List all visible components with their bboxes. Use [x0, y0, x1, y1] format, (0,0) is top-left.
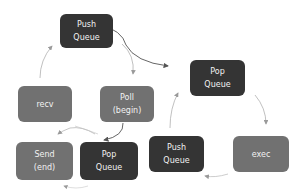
node-label: Queue — [73, 31, 99, 44]
node-label: (end) — [34, 161, 55, 174]
node-label: exec — [252, 148, 271, 161]
node-label: Queue — [163, 154, 189, 167]
node-label: Send — [34, 148, 54, 161]
edge-push-queue-to-pop-queue-2 — [170, 93, 178, 128]
node-send: Send (end) — [16, 142, 73, 180]
node-label: Push — [77, 18, 96, 31]
node-pop-queue-right: Pop Queue — [190, 60, 245, 96]
node-push-queue-top: Push Queue — [60, 14, 113, 48]
node-push-queue-bottom: Push Queue — [149, 136, 204, 172]
node-label: (begin) — [113, 104, 142, 117]
edge-pop-queue-to-exec — [255, 95, 266, 124]
node-label: Pop — [210, 65, 225, 78]
node-recv: recv — [18, 86, 72, 122]
node-label: Poll — [120, 91, 134, 104]
node-label: recv — [36, 98, 53, 111]
node-label: Queue — [204, 78, 230, 91]
node-label: Pop — [102, 148, 117, 161]
edge-exec-to-push-queue — [205, 174, 228, 177]
node-label: Push — [167, 141, 186, 154]
queue-flow-diagram: Push Queue Pop Queue recv Poll (begin) S… — [0, 0, 305, 194]
node-exec: exec — [233, 136, 289, 172]
node-label: Queue — [96, 161, 122, 174]
edge-tangle — [75, 126, 98, 134]
node-pop-queue-bottom: Pop Queue — [80, 142, 138, 180]
edge-poll-to-recv — [58, 128, 95, 134]
node-poll: Poll (begin) — [100, 86, 154, 122]
edge-recv-to-push-queue — [40, 46, 52, 78]
edge-pop-queue-to-send — [64, 186, 88, 188]
edge-push-queue-to-poll — [122, 44, 133, 74]
edge-poll-to-pop-queue — [104, 123, 123, 140]
